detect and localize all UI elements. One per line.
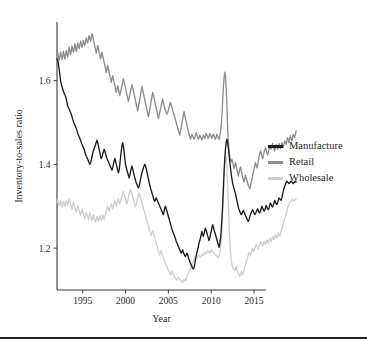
x-axis: 19952000200520102015 Year (57, 290, 266, 324)
y-tick-group: 1.21.41.6 (39, 76, 57, 254)
x-tick-group: 19952000200520102015 (73, 290, 264, 306)
legend-item-manufacture[interactable]: Manufacture (268, 139, 367, 154)
y-tick-label: 1.6 (39, 76, 51, 86)
legend-label-wholesale: Wholesale (289, 173, 333, 184)
legend-swatch-retail (268, 161, 283, 164)
x-axis-title: Year (152, 313, 171, 324)
series-line-wholesale (57, 156, 296, 282)
y-axis: 1.21.41.6 Inventory-to-sales ratio (13, 22, 57, 290)
y-axis-title: Inventory-to-sales ratio (13, 109, 24, 203)
y-tick-label: 1.4 (39, 160, 51, 170)
x-tick-label: 2005 (159, 296, 178, 306)
x-tick-label: 2000 (116, 296, 135, 306)
legend-label-retail: Retail (289, 157, 314, 168)
series-line-retail (57, 34, 296, 189)
legend-item-retail[interactable]: Retail (268, 155, 367, 170)
footer-rule (0, 337, 367, 339)
series-group (57, 34, 296, 283)
x-tick-label: 2015 (245, 296, 264, 306)
legend-swatch-wholesale (268, 177, 283, 180)
series-line-manufacture (57, 59, 296, 269)
legend-swatch-manufacture (268, 145, 283, 148)
y-tick-label: 1.2 (39, 244, 51, 254)
x-tick-label: 2010 (202, 296, 221, 306)
legend-label-manufacture: Manufacture (289, 141, 343, 152)
chart-legend: Manufacture Retail Wholesale (268, 139, 367, 187)
legend-item-wholesale[interactable]: Wholesale (268, 171, 367, 186)
chart-figure: 1.21.41.6 Inventory-to-sales ratio 19952… (0, 0, 367, 351)
x-tick-label: 1995 (73, 296, 92, 306)
